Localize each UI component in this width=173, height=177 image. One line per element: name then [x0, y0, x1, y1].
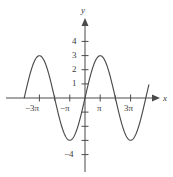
x-tick-label-pi: π — [97, 104, 102, 113]
coordinate-plane — [0, 0, 173, 177]
y-tick-label-1: 1 — [72, 79, 77, 88]
x-axis — [6, 95, 160, 102]
x-tick-label-neg-pi: −π — [60, 104, 70, 113]
y-tick-label-4: 4 — [72, 37, 77, 46]
x-axis-label: x — [163, 94, 167, 103]
x-tick-label-3pi: 3π — [124, 104, 133, 113]
y-tick-label-2: 2 — [72, 65, 77, 74]
x-tick-label-neg-3pi: −3π — [25, 104, 39, 113]
y-axis-label: y — [81, 6, 85, 15]
graph-figure: −3π −π π 3π 4 3 2 1 −4 y x — [0, 0, 173, 177]
y-tick-label-neg-4: −4 — [64, 150, 74, 159]
y-tick-label-3: 3 — [72, 51, 77, 60]
